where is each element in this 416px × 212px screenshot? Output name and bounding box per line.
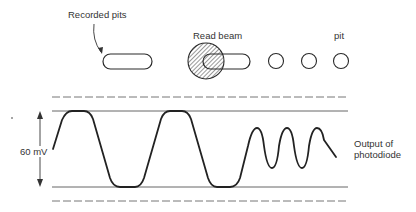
recorded-pits-leader-arrow xyxy=(94,24,103,54)
recorded-pits-label: Recorded pits xyxy=(68,9,127,20)
recorded-pit xyxy=(103,54,152,69)
read-beam-label: Read beam xyxy=(193,30,242,41)
voltage-label: 60 mV xyxy=(20,146,47,157)
read-beam-spot xyxy=(188,43,224,79)
photodiode-waveform xyxy=(53,111,336,187)
pit-label: pit xyxy=(334,30,344,41)
output-label-line2: photodiode xyxy=(354,149,401,160)
stray-dot xyxy=(11,117,13,119)
output-label-line1: Output of xyxy=(354,138,393,149)
small-pit-2 xyxy=(302,54,317,69)
small-pit-3 xyxy=(334,54,349,69)
small-pit-1 xyxy=(269,54,284,69)
